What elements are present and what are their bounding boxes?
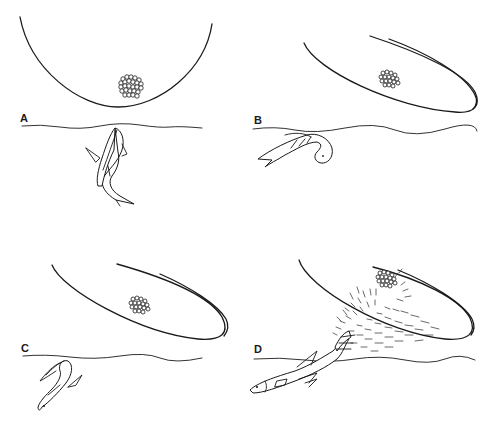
water-surface	[22, 124, 202, 129]
panel-c: C	[0, 215, 245, 429]
panel-c-drawing	[0, 215, 245, 429]
egg-cluster	[379, 70, 400, 88]
egg-cluster	[119, 75, 143, 98]
panel-a: A	[0, 0, 245, 215]
water-surface	[253, 125, 477, 134]
leaf-outline	[20, 17, 212, 107]
leaf-outline-inner	[160, 274, 228, 336]
panel-a-drawing	[0, 0, 245, 215]
water-surface	[23, 354, 202, 361]
fish-c	[38, 361, 82, 410]
fish-b	[258, 133, 332, 167]
spawning-figure: A	[0, 0, 491, 429]
fish-a	[86, 128, 134, 206]
fish-d	[250, 331, 355, 393]
panel-b-drawing	[245, 0, 491, 215]
panel-d-drawing	[245, 215, 491, 429]
leaf-outline-inner	[389, 39, 476, 109]
panel-b: B	[245, 0, 491, 215]
panel-d: D	[245, 215, 491, 429]
water-surface	[254, 356, 475, 362]
egg-cluster	[129, 296, 150, 314]
